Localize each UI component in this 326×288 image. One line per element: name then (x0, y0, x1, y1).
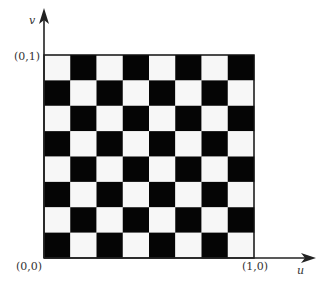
light-square (228, 131, 255, 157)
u-axis-label: u (297, 265, 304, 277)
dark-square (70, 55, 97, 81)
dark-square (149, 131, 176, 157)
dark-square (70, 157, 97, 183)
light-square (202, 157, 229, 183)
diagram-canvas (0, 0, 326, 288)
light-square (202, 207, 229, 233)
v-axis-label: v (29, 15, 35, 27)
light-square (44, 207, 71, 233)
dark-square (123, 106, 150, 132)
dark-square (175, 55, 202, 81)
dark-square (123, 207, 150, 233)
dark-square (149, 233, 176, 259)
light-square (123, 131, 150, 157)
dark-square (44, 182, 71, 208)
dark-square (228, 106, 255, 132)
light-square (97, 157, 124, 183)
dark-square (228, 207, 255, 233)
light-square (44, 55, 71, 81)
light-square (123, 182, 150, 208)
dark-square (70, 207, 97, 233)
light-square (202, 106, 229, 132)
checkerboard-uv-diagram: (0,1) (0,0) (1,0) v u (0, 0, 326, 288)
light-square (97, 106, 124, 132)
dark-square (123, 157, 150, 183)
light-square (175, 182, 202, 208)
dark-square (175, 106, 202, 132)
light-square (123, 80, 150, 106)
light-square (149, 106, 176, 132)
light-square (175, 131, 202, 157)
dark-square (44, 131, 71, 157)
dark-square (97, 182, 124, 208)
light-square (70, 182, 97, 208)
light-square (44, 106, 71, 132)
corner-label-origin: (0,0) (16, 261, 42, 273)
corner-label-bottom-right: (1,0) (242, 261, 268, 273)
dark-square (70, 106, 97, 132)
light-square (149, 157, 176, 183)
dark-square (175, 157, 202, 183)
light-square (228, 233, 255, 259)
dark-square (228, 157, 255, 183)
corner-label-top-left: (0,1) (14, 51, 40, 63)
dark-square (202, 233, 229, 259)
light-square (70, 80, 97, 106)
light-square (175, 80, 202, 106)
dark-square (123, 55, 150, 81)
light-square (123, 233, 150, 259)
light-square (44, 157, 71, 183)
light-square (228, 182, 255, 208)
dark-square (149, 182, 176, 208)
dark-square (97, 233, 124, 259)
light-square (70, 233, 97, 259)
dark-square (228, 55, 255, 81)
dark-square (44, 233, 71, 259)
light-square (175, 233, 202, 259)
dark-square (97, 131, 124, 157)
dark-square (175, 207, 202, 233)
light-square (202, 55, 229, 81)
light-square (149, 207, 176, 233)
light-square (97, 207, 124, 233)
dark-square (44, 80, 71, 106)
dark-square (202, 131, 229, 157)
dark-square (202, 182, 229, 208)
dark-square (97, 80, 124, 106)
dark-square (202, 80, 229, 106)
light-square (228, 80, 255, 106)
light-square (97, 55, 124, 81)
dark-square (149, 80, 176, 106)
light-square (70, 131, 97, 157)
checkerboard (44, 55, 254, 258)
light-square (149, 55, 176, 81)
